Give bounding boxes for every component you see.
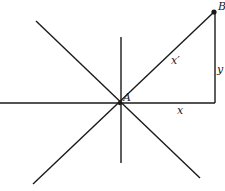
diagonal-line-descending <box>36 21 200 178</box>
label-x-prime: x′ <box>171 54 180 67</box>
point-a-marker <box>118 101 122 105</box>
label-x: x <box>177 104 184 117</box>
label-b: B <box>217 0 225 13</box>
label-a: A <box>122 91 131 104</box>
point-b-marker <box>211 9 216 14</box>
label-y: y <box>216 63 224 76</box>
diagram-canvas: B A x′ y x <box>0 0 225 191</box>
